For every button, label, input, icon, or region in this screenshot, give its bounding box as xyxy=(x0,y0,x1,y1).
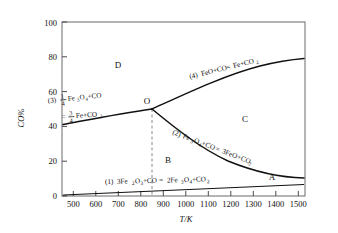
eq3-frac-denominator: 4 xyxy=(61,99,66,106)
x-tick-label-700: 700 xyxy=(112,199,125,209)
eq3-number: (3) xyxy=(47,96,57,105)
eq1-co: +CO xyxy=(143,177,157,185)
eq3b-tail: Fe+CO xyxy=(76,111,98,120)
eq3-frac-numerator: 1 xyxy=(60,92,64,99)
eq4-left: FeO+CO xyxy=(200,64,228,78)
y-tick-label-100: 100 xyxy=(44,18,57,28)
y-tick-label-20: 20 xyxy=(49,156,58,166)
x-axis-title: T/K xyxy=(180,214,194,224)
eq2-right: 3FeO+CO xyxy=(221,147,252,165)
eq2-sub-2: 2 xyxy=(248,160,253,167)
region-label-b: B xyxy=(165,155,171,165)
eq3b-sub-2: 2 xyxy=(100,113,103,119)
equation-2: (2) Fe 3 O 4 +CO = 3FeO+CO 2 xyxy=(171,128,254,167)
x-tick-label-600: 600 xyxy=(89,199,102,209)
region-label-a: A xyxy=(269,172,276,182)
x-tick-label-1400: 1400 xyxy=(267,199,284,209)
region-label-c: C xyxy=(242,114,248,124)
y-tick-label-60: 60 xyxy=(49,87,58,97)
x-tick-label-1300: 1300 xyxy=(245,199,262,209)
invariant-point-o-marker xyxy=(151,108,153,110)
eq1-o1: O xyxy=(135,177,140,185)
eq4-number: (4) xyxy=(189,71,200,81)
eq4-sub-2: 2 xyxy=(255,59,259,66)
curve-reaction-2 xyxy=(152,109,304,178)
eq1-part2: 2Fe xyxy=(167,176,178,184)
eq4-equals: = xyxy=(225,63,231,72)
region-label-d: D xyxy=(115,60,122,70)
y-axis-title: CO% xyxy=(16,109,26,128)
x-tick-label-1000: 1000 xyxy=(177,199,194,209)
eq3b-frac-numerator: 3 xyxy=(69,109,73,116)
y-axis-ticks xyxy=(62,22,67,196)
x-tick-label-900: 900 xyxy=(157,199,170,209)
y-tick-label-80: 80 xyxy=(49,52,58,62)
eq3-co: +CO xyxy=(87,91,102,100)
plot-frame xyxy=(62,22,305,196)
x-tick-label-500: 500 xyxy=(67,199,80,209)
y-tick-label-40: 40 xyxy=(49,121,58,131)
invariant-point-label-o: O xyxy=(144,96,151,106)
eq3-fe: Fe xyxy=(67,94,75,103)
x-tick-label-1200: 1200 xyxy=(222,199,239,209)
eq2-fe: Fe xyxy=(182,132,192,142)
eq2-number: (2) xyxy=(171,128,182,139)
eq1-equals: = xyxy=(159,176,163,184)
eq1-part1: 3Fe xyxy=(117,177,128,185)
y-tick-label-0: 0 xyxy=(53,191,57,201)
chart-container: 0 20 40 60 80 100 CO% 500 600 700 800 90… xyxy=(0,0,338,233)
x-tick-label-1500: 1500 xyxy=(290,199,307,209)
eq1-sub-2b: 2 xyxy=(207,178,210,184)
eq1-part3: +CO xyxy=(192,175,206,183)
curve-reaction-1 xyxy=(63,185,304,196)
x-tick-label-1100: 1100 xyxy=(200,199,217,209)
eq3b-equals: = xyxy=(62,113,67,121)
eq1-number: (1) xyxy=(105,178,114,186)
phase-diagram-svg: 0 20 40 60 80 100 CO% 500 600 700 800 90… xyxy=(0,0,338,233)
equation-1: (1) 3Fe 2 O 3 +CO = 2Fe 3 O 4 +CO 2 xyxy=(105,175,210,187)
eq1-o2: O xyxy=(184,176,189,184)
x-tick-label-800: 800 xyxy=(134,199,147,209)
